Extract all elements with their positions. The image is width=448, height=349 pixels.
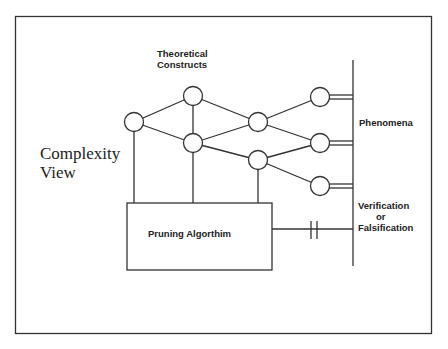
theoretical-constructs-label: Theoretical Constructs — [157, 48, 210, 70]
verification-label: Verification or Falsification — [358, 200, 414, 233]
phenomena-connectors — [329, 95, 353, 188]
pruning-algorithm-label: Pruning Algorthim — [148, 228, 231, 239]
node-circle — [311, 134, 330, 153]
node-circle — [249, 113, 268, 132]
node-circle — [184, 87, 203, 106]
complexity-view-diagram: Complexity View Theoretical Constructs — [0, 0, 448, 349]
phenomena-label: Phenomena — [359, 117, 414, 128]
node-circle — [125, 113, 144, 132]
verification-connector — [272, 221, 353, 239]
network-edges — [134, 96, 320, 203]
node-circle — [249, 151, 268, 170]
node-circle — [311, 88, 330, 107]
theoretical-construct-nodes — [125, 87, 330, 196]
node-circle — [311, 177, 330, 196]
outer-frame — [16, 17, 432, 334]
diagram-title: Complexity View — [40, 144, 125, 182]
node-circle — [184, 134, 203, 153]
